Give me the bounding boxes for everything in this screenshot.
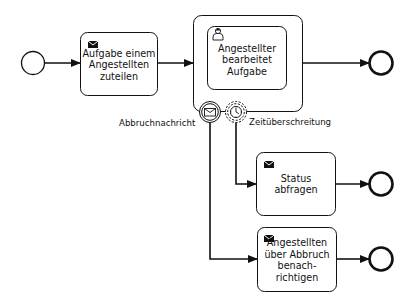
message-boundary-event-label: Abbruchnachricht bbox=[119, 118, 195, 128]
task-assign-employee-label: Aufgabe einem Angestellten zuteilen bbox=[80, 47, 158, 83]
envelope-icon bbox=[264, 161, 274, 168]
clock-icon bbox=[230, 106, 241, 117]
end-event-1[interactable] bbox=[370, 52, 393, 75]
sequence-flow-timer-to-status[interactable] bbox=[236, 123, 256, 185]
sequence-flow-message-to-notify[interactable] bbox=[210, 123, 257, 260]
task-employee-processes-label: Angestellter bearbeitet Aufgabe bbox=[207, 42, 287, 78]
timer-boundary-event[interactable] bbox=[226, 102, 247, 123]
message-boundary-event[interactable] bbox=[200, 102, 221, 123]
start-event[interactable] bbox=[22, 52, 45, 75]
task-query-status-label: Status abfragen bbox=[256, 172, 336, 196]
timer-boundary-event-label: Zeitüberschreitung bbox=[249, 117, 331, 127]
end-event-3[interactable] bbox=[370, 248, 393, 271]
envelope-icon bbox=[205, 109, 216, 117]
end-event-2[interactable] bbox=[370, 173, 393, 196]
task-notify-employee-label: Angestellten über Abbruch benach- richti… bbox=[257, 236, 337, 284]
